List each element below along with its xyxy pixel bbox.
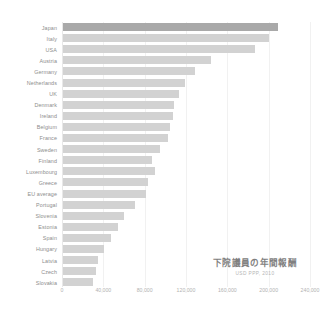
bar-row: France [0,133,334,144]
bar-track [61,211,334,222]
bar [63,23,278,31]
bar [63,212,124,220]
bar-track [61,233,334,244]
bar-track [61,100,334,111]
bar [63,190,146,198]
bar [63,79,185,87]
category-label: Slovenia [0,213,61,219]
bar-row: Portugal [0,200,334,211]
bar-track [61,111,334,122]
bar [63,245,104,253]
category-label: Japan [0,25,61,31]
category-label: Portugal [0,202,61,208]
bar [63,101,174,109]
bar-track [61,33,334,44]
category-label: France [0,135,61,141]
category-label: Netherlands [0,80,61,86]
bar [63,278,93,286]
bar-row: Finland [0,155,334,166]
bar [63,112,173,120]
bar-track [61,144,334,155]
bar-row: Netherlands [0,77,334,88]
bar [63,223,118,231]
category-label: Greece [0,180,61,186]
bar-track [61,122,334,133]
bar-row: Estonia [0,222,334,233]
bar-track [61,222,334,233]
category-label: Spain [0,235,61,241]
bar-row: Japan [0,22,334,33]
category-label: USA [0,47,61,53]
bar-track [61,177,334,188]
bar-row: Denmark [0,100,334,111]
bar-row: USA [0,44,334,55]
bar-row: Spain [0,233,334,244]
bar [63,201,135,209]
bar-track [61,22,334,33]
bar-row: Italy [0,33,334,44]
bar [63,156,152,164]
x-axis: 040,00080,000120,000160,000200,000240,00… [0,287,334,301]
category-label: Germany [0,69,61,75]
bar-track [61,77,334,88]
category-label: Finland [0,158,61,164]
x-tick-label: 40,000 [95,287,111,294]
bar [63,134,168,142]
bar-chart: JapanItalyUSAAustriaGermanyNetherlandsUK… [0,0,334,317]
bar [63,256,98,264]
category-label: Belgium [0,124,61,130]
category-label: Austria [0,58,61,64]
category-label: Sweden [0,147,61,153]
bar [63,178,148,186]
bar [63,90,179,98]
bar-row: Luxembourg [0,166,334,177]
x-tick-label: 80,000 [137,287,153,294]
bar-track [61,155,334,166]
bar-track [61,244,334,255]
category-label: Italy [0,36,61,42]
x-tick-label: 200,000 [259,287,278,294]
bar-row: Greece [0,177,334,188]
bar [63,56,211,64]
bar-track [61,44,334,55]
category-label: Hungary [0,246,61,252]
bar [63,34,269,42]
bar-row: Germany [0,66,334,77]
bar-track [61,66,334,77]
bar-row: Ireland [0,111,334,122]
x-tick-label: 240,000 [301,287,320,294]
bar-row: UK [0,89,334,100]
bar [63,234,111,242]
category-label: Estonia [0,224,61,230]
bar-row: Belgium [0,122,334,133]
x-tick-label: 0 [61,287,64,294]
plot-area: JapanItalyUSAAustriaGermanyNetherlandsUK… [0,22,334,284]
chart-title: 下院議員の年間報酬 [195,258,315,269]
bar [63,167,155,175]
bar [63,67,195,75]
bar-track [61,55,334,66]
bar-track [61,166,334,177]
category-label: EU average [0,191,61,197]
category-label: Czech [0,269,61,275]
category-label: Denmark [0,102,61,108]
category-label: Slovakia [0,280,61,286]
title-block: 下院議員の年間報酬 USD PPP, 2010 [195,258,315,277]
bar-row: Sweden [0,144,334,155]
bar [63,45,255,53]
bar [63,123,170,131]
bar-row: Hungary [0,244,334,255]
chart-subtitle: USD PPP, 2010 [195,270,315,277]
x-tick-label: 160,000 [218,287,237,294]
bar-track [61,89,334,100]
category-label: Latvia [0,258,61,264]
x-tick-label: 120,000 [177,287,196,294]
bar [63,267,96,275]
category-label: UK [0,91,61,97]
category-label: Luxembourg [0,169,61,175]
bar-track [61,200,334,211]
bar [63,145,160,153]
bar-track [61,188,334,199]
bar-row: EU average [0,188,334,199]
bar-row: Austria [0,55,334,66]
